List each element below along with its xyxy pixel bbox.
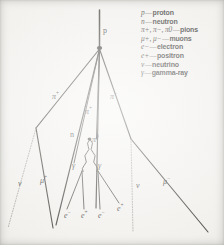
track-label-positron-2: e+ [117,205,124,213]
legend-row-proton: p—proton [141,9,223,18]
gamma-ray-left [82,140,89,172]
legend-row-positron: e+—positron [141,52,223,61]
legend-label: positron [157,52,184,59]
track-label-primary-proton: p [103,27,107,35]
legend-dash: — [149,43,157,51]
legend-label: neutron [153,18,178,25]
track-label-electron-2: e− [98,212,105,220]
track-label-pion-minus-right: π− [110,93,117,101]
legend-label: gamma-ray [152,69,188,76]
track-label-neutrino-left: ν [18,180,22,188]
legend-label: electron [157,43,183,50]
track-neutrino-right [131,139,133,232]
legend-label: muons [169,35,191,42]
legend-dash: — [172,26,180,34]
track-positron-1 [82,171,84,209]
legend-label: proton [153,9,174,16]
track-label-gamma-right: γ [98,162,101,170]
track-label-pion-plus-center: π+ [85,108,92,116]
legend-label: pions [180,26,198,33]
track-label-electron-1: e− [64,212,71,220]
legend-label: neutrino [152,61,179,68]
legend-row-neutrino: ν—neutrino [141,61,223,70]
track-label-muon-minus: μ− [163,178,170,186]
legend: p—proton n—neutron π+, π−, π0—pions μ+, … [141,9,223,78]
track-neutron [74,49,100,163]
legend-dash: — [145,9,153,17]
legend-dash: — [144,61,152,69]
track-label-pion-zero: π0 [92,136,99,144]
track-electron-1 [67,171,82,209]
track-positron-2 [98,171,119,203]
figure-canvas: .trk { stroke: #25241f; fill: none; stro… [0,0,224,245]
legend-row-electron: e−—electron [141,43,223,52]
legend-row-gamma-ray: γ—gamma-ray [141,69,223,78]
track-label-pion-plus-left: π+ [52,93,59,101]
track-label-neutron-center: n [70,131,74,139]
track-label-positron-1: e+ [81,212,88,220]
track-label-muon-plus: μ+ [40,177,47,185]
track-electron-2 [98,171,100,209]
legend-dash: — [144,69,152,77]
track-label-neutrino-right: ν [136,182,140,190]
legend-dash: — [149,52,157,60]
track-neutrino-left [8,128,36,228]
track-label-gamma-left: γ [72,162,75,170]
